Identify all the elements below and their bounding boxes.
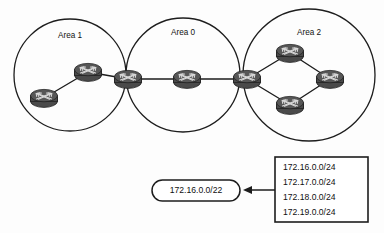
- area-label-area-1: Area 1: [58, 31, 83, 40]
- diagram-canvas: Area 1 Area 0 Area 2 172.16.0.0/22 172.1…: [0, 0, 384, 233]
- summarization-arrow-head: [243, 186, 252, 194]
- area-label-area-0: Area 0: [171, 28, 196, 37]
- summary-route-label: 172.16.0.0/22: [170, 185, 223, 195]
- subnet-list-item: 172.18.0.0/24: [283, 192, 336, 202]
- router-icon-a1-internal-top: [75, 63, 102, 81]
- network-diagram: Area 1 Area 0 Area 2 172.16.0.0/22 172.1…: [0, 0, 384, 233]
- router-icon-a0-backbone: [174, 70, 201, 88]
- router-icon-a2-right: [317, 70, 344, 88]
- router-icon-a2-top: [277, 44, 304, 62]
- subnet-list-item: 172.17.0.0/24: [283, 177, 336, 187]
- area-label-area-2: Area 2: [297, 28, 322, 37]
- subnet-list-item: 172.16.0.0/24: [283, 162, 336, 172]
- router-icon-a2-bottom: [277, 96, 304, 114]
- subnet-list-item: 172.19.0.0/24: [283, 207, 336, 217]
- router-icon-abr-1: [115, 70, 142, 88]
- router-icon-a1-internal-bottom: [31, 89, 58, 107]
- router-icon-abr-2: [234, 70, 261, 88]
